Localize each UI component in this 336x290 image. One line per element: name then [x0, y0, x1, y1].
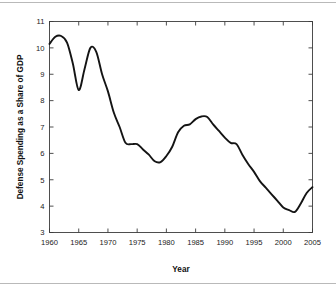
y-tick-label: 10: [36, 44, 44, 53]
x-axis-title: Year: [172, 265, 190, 274]
x-tick-label: 1970: [99, 238, 116, 247]
y-tick-label: 11: [37, 17, 45, 26]
line-chart-svg: 1960196519701975198019851990199520002005…: [0, 0, 336, 290]
data-series-line: [50, 35, 313, 212]
y-tick-label: 9: [40, 70, 44, 79]
y-tick-label: 4: [40, 202, 44, 211]
x-axis-tick-labels: 1960196519701975198019851990199520002005: [41, 238, 321, 247]
x-tick-label: 1985: [187, 238, 204, 247]
y-tick-label: 8: [40, 96, 44, 105]
y-tick-label: 7: [40, 123, 44, 132]
x-tick-label: 1980: [158, 238, 175, 247]
y-axis-tick-labels: 34567891011: [36, 17, 44, 237]
x-tick-label: 1995: [246, 238, 263, 247]
y-tick-label: 3: [40, 228, 44, 237]
x-tick-label: 2005: [304, 238, 321, 247]
y-tick-label: 5: [40, 176, 44, 185]
chart-figure: 1960196519701975198019851990199520002005…: [0, 0, 336, 290]
y-tick-label: 6: [40, 149, 44, 158]
x-tick-label: 1990: [216, 238, 233, 247]
x-tick-label: 2000: [275, 238, 292, 247]
x-tick-label: 1965: [70, 238, 87, 247]
x-tick-label: 1960: [41, 238, 58, 247]
y-axis-title: Defense Spending as a Share of GDP: [16, 54, 25, 199]
x-tick-label: 1975: [129, 238, 146, 247]
